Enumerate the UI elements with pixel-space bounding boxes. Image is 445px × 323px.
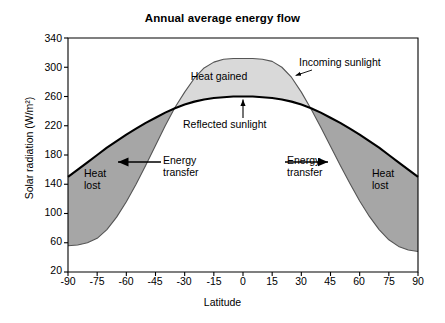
incoming-sunlight-arrow [296, 70, 312, 75]
incoming-sunlight-label: Incoming sunlight [299, 57, 409, 69]
plot-area [0, 0, 445, 323]
energy-transfer-left-label: Energy transfer [163, 155, 217, 178]
reflected-sunlight-label: Reflected sunlight [183, 119, 295, 131]
area-fills [68, 58, 418, 251]
energy-flow-chart-figure: Annual average energy flow Solar radiati… [0, 0, 445, 323]
heat-gained-label: Heat gained [183, 71, 255, 83]
energy-transfer-right-label: Energy transfer [287, 155, 341, 178]
heat-lost-left-label: Heat lost [84, 168, 124, 191]
heat-lost-right-label: Heat lost [372, 168, 412, 191]
